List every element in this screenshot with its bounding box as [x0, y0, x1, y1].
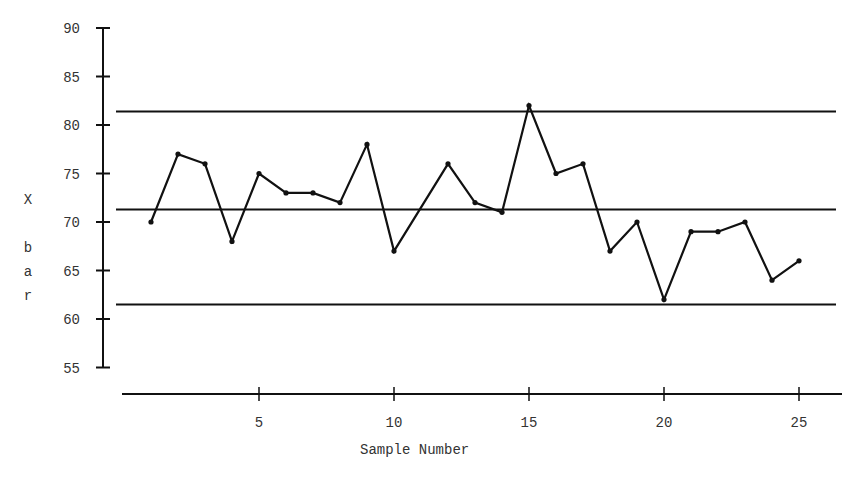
- data-point-marker: [256, 171, 261, 176]
- data-point-marker: [742, 219, 747, 224]
- data-point-marker: [445, 161, 450, 166]
- data-point-marker: [391, 249, 396, 254]
- data-point-marker: [364, 142, 369, 147]
- data-point-marker: [661, 297, 666, 302]
- y-tick-label: 85: [63, 70, 80, 86]
- y-tick-label: 60: [63, 312, 80, 328]
- x-tick-label: 10: [386, 415, 403, 431]
- data-point-marker: [499, 210, 504, 215]
- y-tick-label: 90: [63, 21, 80, 37]
- x-tick-label: 25: [791, 415, 808, 431]
- data-point-marker: [607, 249, 612, 254]
- x-tick-label: 20: [656, 415, 673, 431]
- data-point-marker: [310, 190, 315, 195]
- y-tick-label: 70: [63, 215, 80, 231]
- data-point-marker: [283, 190, 288, 195]
- data-point-marker: [472, 200, 477, 205]
- control-chart: 5560657075808590 510152025: [0, 0, 852, 477]
- data-point-marker: [337, 200, 342, 205]
- data-point-marker: [634, 219, 639, 224]
- data-point-marker: [715, 229, 720, 234]
- data-point-marker: [580, 161, 585, 166]
- data-point-marker: [553, 171, 558, 176]
- y-tick-label: 65: [63, 264, 80, 280]
- x-tick-label: 5: [255, 415, 263, 431]
- x-axis: 510152025: [122, 387, 842, 431]
- x-tick-label: 15: [521, 415, 538, 431]
- y-axis: 5560657075808590: [63, 21, 110, 377]
- data-point-marker: [688, 229, 693, 234]
- y-tick-label: 55: [63, 361, 80, 377]
- data-point-marker: [526, 103, 531, 108]
- data-point-marker: [229, 239, 234, 244]
- data-point-marker: [769, 278, 774, 283]
- data-point-marker: [175, 152, 180, 157]
- data-point-marker: [202, 161, 207, 166]
- data-point-marker: [148, 219, 153, 224]
- data-series: [148, 103, 801, 302]
- control-limit-lines: [116, 111, 836, 304]
- x-axis-title: Sample Number: [360, 442, 469, 458]
- y-tick-label: 80: [63, 118, 80, 134]
- y-axis-title: X b a r: [20, 188, 36, 308]
- y-tick-label: 75: [63, 167, 80, 183]
- data-point-marker: [796, 258, 801, 263]
